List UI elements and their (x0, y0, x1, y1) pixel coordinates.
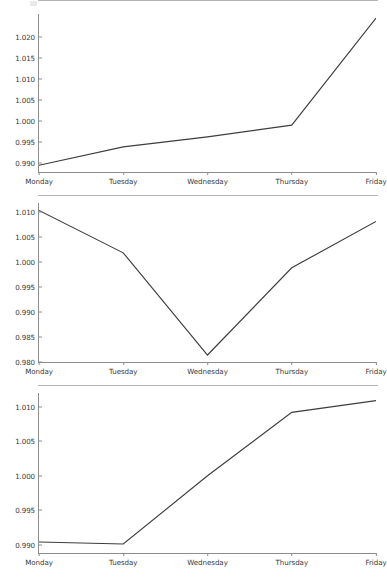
chart-panel-3: 1.0101.0051.0000.9950.990MondayTuesdayWe… (0, 385, 378, 578)
y-axis-tick-label: 1.010 (15, 207, 39, 216)
x-axis-tickmark (39, 553, 40, 556)
x-axis-tickmark (123, 172, 124, 175)
x-axis-tick-label: Monday (25, 553, 53, 567)
y-axis-tickmark (39, 286, 42, 287)
y-axis-tick-label: 0.990 (15, 158, 39, 167)
y-axis-tickmark (39, 162, 42, 163)
y-axis-tickmark (39, 79, 42, 80)
y-axis-tickmark (39, 58, 42, 59)
x-axis-tick-label: Friday (365, 553, 386, 567)
y-axis-tick-label: 1.010 (15, 402, 39, 411)
series-polyline-2 (39, 210, 376, 355)
line-series-svg-2 (39, 203, 376, 362)
y-axis-tickmark (39, 121, 42, 122)
y-axis-tickmark (39, 141, 42, 142)
x-axis-tickmark (207, 362, 208, 365)
y-axis-tick-label: 1.000 (15, 257, 39, 266)
series-plot-1 (39, 14, 376, 172)
y-axis-tickmark (39, 406, 42, 407)
x-axis-tick-label: Wednesday (187, 553, 228, 567)
x-axis-tickmark (291, 553, 292, 556)
series-plot-3 (39, 393, 376, 553)
x-axis-tick-label: Thursday (275, 172, 308, 186)
y-axis-tickmark (39, 37, 42, 38)
y-axis-tickmark (39, 311, 42, 312)
x-axis-tickmark (207, 172, 208, 175)
y-axis-tickmark (39, 211, 42, 212)
x-axis-tickmark (375, 553, 376, 556)
y-axis-tickmark (39, 236, 42, 237)
y-axis-tickmark (39, 510, 42, 511)
x-axis-tick-label: Monday (25, 362, 53, 376)
line-series-svg-1 (39, 14, 376, 172)
line-series-svg-3 (39, 393, 376, 553)
y-axis-tickmark (39, 261, 42, 262)
y-axis-tick-label: 0.995 (15, 506, 39, 515)
x-axis-tick-label: Wednesday (187, 362, 228, 376)
plot-area-3: 1.0101.0051.0000.9950.990MondayTuesdayWe… (38, 393, 376, 554)
series-plot-2 (39, 203, 376, 362)
x-axis-tickmark (375, 362, 376, 365)
y-axis-tick-label: 0.995 (15, 137, 39, 146)
x-axis-tick-label: Thursday (275, 362, 308, 376)
x-axis-tickmark (123, 553, 124, 556)
x-axis-tick-label: Wednesday (187, 172, 228, 186)
x-axis-tick-label: Tuesday (109, 172, 138, 186)
y-axis-tick-label: 0.990 (15, 540, 39, 549)
y-axis-tick-label: 1.005 (15, 437, 39, 446)
x-axis-tick-label: Tuesday (109, 362, 138, 376)
y-axis-tick-label: 0.990 (15, 307, 39, 316)
x-axis-tickmark (39, 172, 40, 175)
x-axis-tickmark (39, 362, 40, 365)
x-axis-tickmark (291, 172, 292, 175)
y-axis-tick-label: 0.995 (15, 282, 39, 291)
plot-area-1: 1.0201.0151.0101.0051.0000.9950.990Monda… (38, 14, 376, 173)
top-left-artifact (30, 1, 37, 6)
y-axis-tickmark (39, 475, 42, 476)
x-axis-tick-label: Thursday (275, 553, 308, 567)
y-axis-tick-label: 1.005 (15, 96, 39, 105)
y-axis-tick-label: 1.015 (15, 54, 39, 63)
x-axis-tickmark (207, 553, 208, 556)
x-axis-tick-label: Friday (365, 362, 386, 376)
y-axis-tick-label: 1.010 (15, 75, 39, 84)
y-axis-tickmark (39, 336, 42, 337)
plot-area-2: 1.0101.0051.0000.9950.9900.9850.980Monda… (38, 203, 376, 363)
x-axis-tickmark (123, 362, 124, 365)
y-axis-tickmark (39, 100, 42, 101)
figure-top-rule-1 (38, 0, 378, 1)
x-axis-tickmark (375, 172, 376, 175)
y-axis-tick-label: 1.020 (15, 33, 39, 42)
y-axis-tick-label: 1.000 (15, 117, 39, 126)
y-axis-tick-label: 0.985 (15, 332, 39, 341)
y-axis-tickmark (39, 544, 42, 545)
x-axis-tick-label: Tuesday (109, 553, 138, 567)
y-axis-tick-label: 1.005 (15, 232, 39, 241)
x-axis-tick-label: Friday (365, 172, 386, 186)
figure-top-rule-3 (38, 385, 378, 386)
figure-top-rule-2 (38, 195, 378, 196)
series-polyline-3 (39, 401, 376, 544)
x-axis-tickmark (291, 362, 292, 365)
x-axis-tick-label: Monday (25, 172, 53, 186)
y-axis-tick-label: 1.000 (15, 471, 39, 480)
y-axis-tickmark (39, 441, 42, 442)
chart-panel-1: 1.0201.0151.0101.0051.0000.9950.990Monda… (0, 0, 378, 195)
chart-panel-2: 1.0101.0051.0000.9950.9900.9850.980Monda… (0, 195, 378, 385)
series-polyline-1 (39, 18, 376, 165)
